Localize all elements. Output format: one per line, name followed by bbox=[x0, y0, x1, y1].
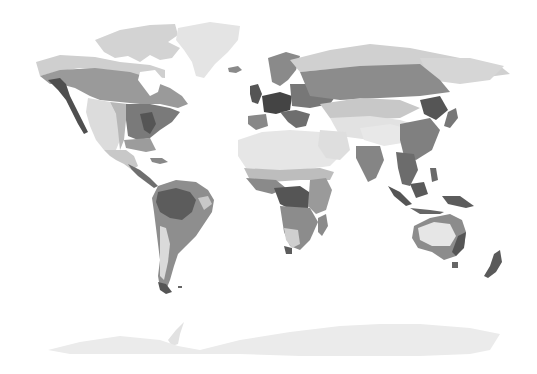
manchuria-korea bbox=[420, 96, 448, 120]
south-america bbox=[152, 180, 214, 294]
antarctica bbox=[48, 322, 500, 356]
scandinavia bbox=[268, 52, 300, 86]
borneo bbox=[410, 182, 428, 198]
java-chain bbox=[410, 208, 444, 214]
central-america bbox=[128, 164, 158, 188]
new-guinea bbox=[442, 196, 474, 208]
western-europe bbox=[262, 92, 292, 114]
antarctica-ice-sheet bbox=[48, 324, 500, 356]
east-africa bbox=[308, 178, 332, 214]
tasmania bbox=[452, 262, 458, 268]
indochina bbox=[396, 152, 418, 186]
british-isles bbox=[250, 84, 262, 104]
madagascar bbox=[318, 214, 328, 236]
iceland bbox=[228, 66, 242, 73]
canadian-arctic-islands bbox=[95, 24, 180, 62]
new-zealand bbox=[484, 250, 502, 278]
southeast-us bbox=[124, 138, 156, 152]
world-map bbox=[0, 0, 537, 374]
sumatra bbox=[388, 186, 412, 206]
philippines bbox=[430, 168, 438, 182]
north-america bbox=[36, 24, 188, 188]
italy-balkans bbox=[280, 110, 310, 128]
iberia bbox=[248, 114, 268, 130]
kalahari bbox=[284, 228, 300, 248]
india bbox=[356, 146, 384, 182]
cape-region bbox=[284, 246, 292, 254]
falklands bbox=[178, 286, 182, 288]
australia bbox=[412, 214, 466, 268]
caribbean-islands bbox=[150, 158, 168, 164]
congo-rainforest bbox=[274, 186, 312, 210]
antarctic-peninsula bbox=[168, 322, 184, 346]
patagonia-tip bbox=[158, 282, 172, 294]
